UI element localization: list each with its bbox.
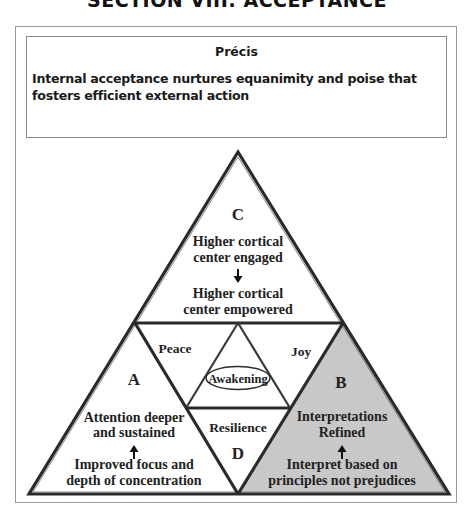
triangle-a-line1: Attention deeper [84,410,185,425]
triangle-c-line1: Higher cortical [193,234,283,249]
triangle-b-letter: B [335,373,346,392]
triangle-a-letter: A [128,370,141,389]
center-triangle-right-edge [238,323,290,408]
down-arrow-icon [234,269,243,283]
triangle-b-line4: principles not prejudices [268,473,416,488]
triangle-c-line4: center empowered [183,302,293,317]
triangle-c-line2: center engaged [193,250,283,265]
peace-label: Peace [159,341,192,356]
triangle-c-letter: C [232,205,244,224]
awakening-label: Awakening [208,372,268,386]
triangle-b-line2: Refined [319,425,366,440]
triangle-d-letter: D [232,444,244,463]
triangle-b-line1: Interpretations [297,409,388,424]
triangle-a-line3: Improved focus and [74,457,194,472]
joy-label: Joy [291,344,312,359]
triangle-a-line2: and sustained [93,425,175,440]
center-triangle-left-edge [186,323,238,408]
triangle-c-line3: Higher cortical [193,286,283,301]
acceptance-triangle-diagram: C Higher cortical center engaged Higher … [0,0,474,516]
triangle-b-line3: Interpret based on [287,457,398,472]
triangle-a-line4: depth of concentration [66,473,202,488]
resilience-label: Resilience [209,420,267,435]
